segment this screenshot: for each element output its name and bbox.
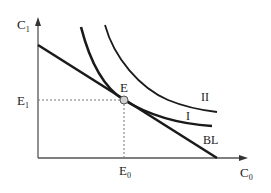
budget-line-label: BL: [203, 133, 218, 147]
y-axis-label: C1: [17, 17, 30, 34]
e1-label: E1: [17, 93, 29, 110]
diagram-canvas: C1 C0 E E1 E0 II I BL: [0, 0, 271, 193]
e0-label: E0: [119, 163, 131, 180]
x-axis-arrow-icon: [239, 155, 248, 161]
curve-2-label: II: [201, 90, 209, 104]
y-axis: [35, 17, 41, 158]
x-axis-label: C0: [240, 165, 253, 182]
y-axis-arrow-icon: [35, 17, 41, 26]
diagram: C1 C0 E E1 E0 II I BL: [0, 0, 271, 193]
curve-1-label: I: [186, 109, 190, 123]
indifference-curve-1: [81, 27, 212, 126]
equilibrium-point: [120, 96, 128, 104]
point-label: E: [120, 80, 128, 95]
